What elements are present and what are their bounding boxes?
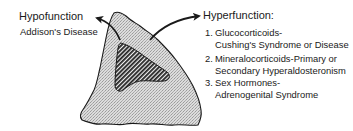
item-category: Mineralocorticoids-Primary or	[215, 53, 337, 64]
item-category: Glucocorticoids-	[215, 27, 282, 38]
item-number: 1.	[205, 28, 215, 37]
hypofunction-title: Hypofunction	[19, 11, 83, 22]
item-number: 2.	[205, 54, 215, 63]
item-category: Sex Hormones-	[215, 77, 280, 88]
hyperfunction-item-1-condition: Cushing's Syndrome or Disease	[215, 40, 349, 49]
hyperfunction-item-2: 2.Mineralocorticoids-Primary or	[205, 54, 337, 63]
hyperfunction-item-1: 1.Glucocorticoids-	[205, 28, 282, 37]
hyperfunction-arrow	[150, 16, 199, 40]
hypofunction-condition: Addison's Disease	[20, 27, 98, 37]
hyperfunction-item-2-condition: Secondary Hyperaldosteronism	[215, 66, 346, 75]
hyperfunction-item-3-condition: Adrenogenital Syndrome	[215, 90, 318, 99]
item-number: 3.	[205, 78, 215, 87]
hyperfunction-item-3: 3.Sex Hormones-	[205, 78, 280, 87]
hyperfunction-title: Hyperfunction:	[203, 10, 274, 21]
